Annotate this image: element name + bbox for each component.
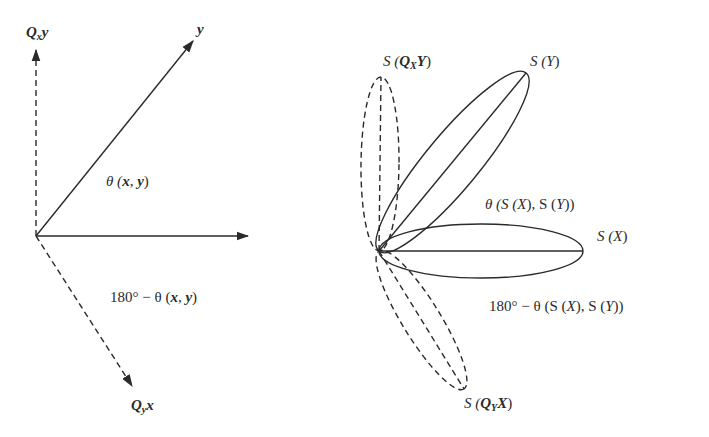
ellipse-s-y xyxy=(358,56,547,268)
supp-x: x xyxy=(170,289,178,305)
label-supplement-xy: 180° − θ (x, y) xyxy=(110,290,197,305)
label-qy-x: Qyx xyxy=(131,398,154,415)
ellipse-s-x xyxy=(379,224,583,278)
diagram-canvas xyxy=(0,0,709,437)
supp-prefix: 180° − θ ( xyxy=(110,289,170,305)
supp-s-close: )) xyxy=(614,298,624,314)
left-vector-diagram xyxy=(36,41,248,386)
theta-comma: , xyxy=(130,173,138,189)
theta-y: y xyxy=(137,173,144,189)
sqyx-close: ) xyxy=(507,395,512,411)
label-s-y: S (Y) xyxy=(530,54,560,69)
sqxy-vec: Y xyxy=(417,53,426,69)
supp-s-pre: 180° − θ (S ( xyxy=(489,298,566,314)
supp-s-mid: ), S ( xyxy=(576,298,606,314)
label-supplement-sx-sy: 180° − θ (S (X), S (Y)) xyxy=(489,299,624,314)
sx-close: ) xyxy=(622,228,627,244)
label-s-x: S (X) xyxy=(597,229,627,244)
sy-vec: Y xyxy=(546,53,554,69)
vector-qy-x xyxy=(36,236,132,386)
label-qx-y: Qxy xyxy=(26,25,49,42)
sqxy-base: Q xyxy=(399,53,410,69)
label-qyx-base: Q xyxy=(131,397,142,413)
theta-s-mid: ), S ( xyxy=(527,196,557,212)
right-ellipse-diagram xyxy=(358,56,583,399)
sqyx-base: Q xyxy=(480,395,491,411)
label-qyx-vec: x xyxy=(146,397,154,413)
label-s-qx-y: S (QXY) xyxy=(383,54,431,71)
sy-close: ) xyxy=(555,53,560,69)
sqxy-sub: X xyxy=(410,60,417,71)
supp-s-y: Y xyxy=(605,298,613,314)
label-s-qy-x: S (QYX) xyxy=(464,396,512,413)
theta-x: x xyxy=(122,173,130,189)
theta-s-pre: θ (S ( xyxy=(485,196,517,212)
sqyx-pre: S ( xyxy=(464,395,480,411)
label-qxy-base: Q xyxy=(26,24,37,40)
supp-s-x: X xyxy=(566,298,575,314)
theta-s-x: X xyxy=(517,196,526,212)
label-theta-xy: θ (x, y) xyxy=(106,174,149,189)
sy-pre: S ( xyxy=(530,53,546,69)
label-theta-sx-sy: θ (S (X), S (Y)) xyxy=(485,197,574,212)
theta-s-close: )) xyxy=(564,196,574,212)
sqyx-vec: X xyxy=(497,395,507,411)
supp-close: ) xyxy=(192,289,197,305)
label-qxy-vec: y xyxy=(42,24,49,40)
ellipse-s-qy-x xyxy=(363,241,480,399)
label-y: y xyxy=(197,22,204,37)
sqxy-pre: S ( xyxy=(383,53,399,69)
vector-y xyxy=(36,41,193,236)
theta-close: ) xyxy=(144,173,149,189)
theta-prefix: θ ( xyxy=(106,173,122,189)
sqxy-close: ) xyxy=(426,53,431,69)
sx-pre: S ( xyxy=(597,228,613,244)
